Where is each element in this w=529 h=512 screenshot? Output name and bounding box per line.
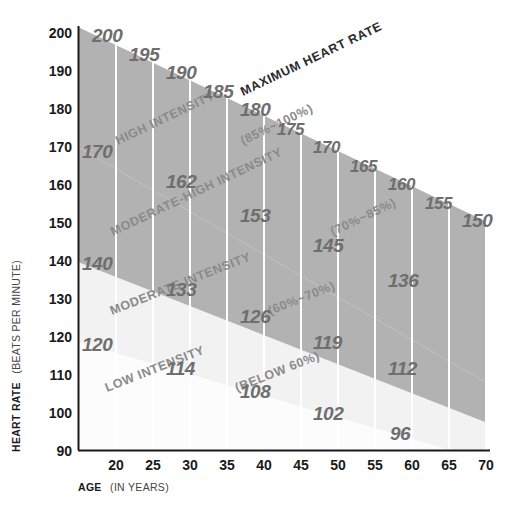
value-label-30-162: 162 [166,171,197,192]
x-tick-50: 50 [330,457,346,473]
x-tick-20: 20 [108,457,124,473]
value-label-25-195: 195 [129,44,160,65]
y-tick-100: 100 [49,405,73,421]
x-tick-70: 70 [478,457,494,473]
value-label-35-185: 185 [203,81,234,102]
y-tick-170: 170 [49,139,73,155]
y-tick-140: 140 [49,253,73,269]
value-label-40-126: 126 [240,306,271,327]
x-tick-60: 60 [404,457,420,473]
value-label-30-190: 190 [166,62,197,83]
y-tick-90: 90 [56,443,72,459]
value-label-60-136: 136 [388,270,419,291]
y-axis-title-bold: HEART RATE [10,382,22,452]
x-tick-30: 30 [182,457,198,473]
chart-figure: 200 190 180 170 160 150 140 130 120 110 … [0,0,529,512]
x-tick-65: 65 [441,457,457,473]
y-tick-190: 190 [49,63,73,79]
value-label-50-170: 170 [313,138,341,157]
value-label-40-153: 153 [240,205,271,226]
value-label-50-119: 119 [313,332,343,353]
value-label-40-108: 108 [240,381,271,402]
value-label-40-180: 180 [240,99,271,120]
value-label-60-112: 112 [388,358,418,379]
value-label-60-96: 96 [390,423,411,444]
heart-rate-zone-chart: 200 190 180 170 160 150 140 130 120 110 … [0,0,529,512]
y-tick-180: 180 [49,101,73,117]
value-label-30-133: 133 [166,279,197,300]
x-tick-40: 40 [256,457,272,473]
value-label-15-170: 170 [82,141,113,162]
y-tick-110: 110 [49,367,72,383]
value-label-65-155: 155 [425,194,453,213]
y-tick-200: 200 [49,25,73,41]
value-label-60-160: 160 [388,175,416,194]
x-axis-title-bold: AGE [78,481,102,493]
value-label-45-175: 175 [277,120,305,139]
value-label-55-165: 165 [350,157,378,176]
y-tick-130: 130 [49,291,73,307]
y-axis-title-rest: (BEATS PER MINUTE) [10,260,22,374]
value-label-30-114: 114 [166,358,196,379]
value-label-15-120: 120 [82,334,113,355]
y-tick-150: 150 [49,215,73,231]
x-tick-45: 45 [293,457,309,473]
y-tick-160: 160 [49,177,73,193]
value-label-20-200: 200 [91,25,123,46]
value-label-50-145: 145 [313,235,344,256]
x-tick-55: 55 [367,457,383,473]
y-tick-120: 120 [49,329,73,345]
x-tick-25: 25 [145,457,161,473]
x-tick-35: 35 [219,457,235,473]
x-axis-title-rest: (IN YEARS) [110,481,169,493]
value-label-50-102: 102 [313,403,344,424]
value-label-70-150: 150 [462,210,493,231]
value-label-15-140: 140 [82,253,113,274]
